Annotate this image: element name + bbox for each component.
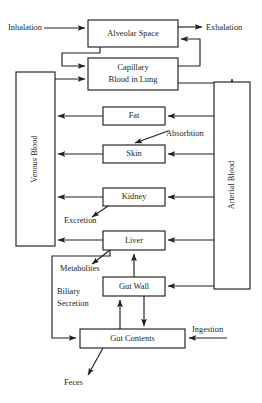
- excretion-label: Excretion: [64, 216, 97, 225]
- node-kidney[interactable]: Kidney: [103, 188, 165, 206]
- gut-wall-label: Gut Wall: [119, 282, 150, 291]
- venous-blood-label: Venous Blood: [30, 135, 39, 183]
- diagram-canvas: Alveolar Space Capillary Blood in Lung V…: [0, 0, 262, 403]
- flow-capillary-to-alveolar: [178, 39, 200, 66]
- node-fat[interactable]: Fat: [103, 107, 165, 125]
- feces-label: Feces: [64, 378, 83, 387]
- capillary-blood-label-line2: Blood in Lung: [109, 75, 159, 84]
- capillary-blood-label-line1: Capillary: [117, 63, 149, 72]
- ingestion-label: Ingestion: [192, 325, 224, 334]
- pbpk-diagram: Alveolar Space Capillary Blood in Lung V…: [0, 0, 262, 403]
- liver-label: Liver: [125, 236, 143, 245]
- absorbtion-label: Absorbtion: [166, 129, 205, 138]
- flow-gutcontents-to-feces: [88, 348, 103, 375]
- gut-contents-label: Gut Contents: [110, 334, 154, 343]
- node-arterial-blood[interactable]: Arterial Blood: [214, 82, 250, 289]
- node-capillary-blood-in-lung[interactable]: Capillary Blood in Lung: [88, 58, 178, 90]
- node-gut-contents[interactable]: Gut Contents: [80, 329, 185, 348]
- node-liver[interactable]: Liver: [103, 231, 165, 250]
- skin-label: Skin: [126, 149, 142, 158]
- flow-liver-to-metabolites: [92, 250, 110, 264]
- arterial-blood-label: Arterial Blood: [227, 160, 236, 209]
- metabolites-label: Metabolites: [60, 264, 100, 273]
- exhalation-label: Exhalation: [206, 23, 243, 32]
- alveolar-space-label: Alveolar Space: [107, 29, 159, 38]
- biliary-label: Biliary: [57, 287, 81, 296]
- secretion-label: Secretion: [57, 299, 89, 308]
- node-alveolar-space[interactable]: Alveolar Space: [88, 20, 178, 47]
- node-venous-blood[interactable]: Venous Blood: [16, 72, 55, 246]
- inhalation-label: Inhalation: [8, 23, 43, 32]
- kidney-label: Kidney: [122, 192, 147, 201]
- flow-absorbtion-to-skin: [135, 131, 168, 143]
- node-skin[interactable]: Skin: [103, 145, 165, 163]
- fat-label: Fat: [129, 111, 140, 120]
- node-gut-wall[interactable]: Gut Wall: [103, 277, 165, 296]
